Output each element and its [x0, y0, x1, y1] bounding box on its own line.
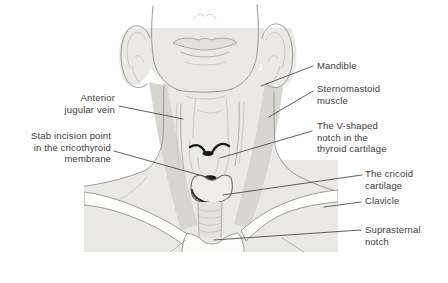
medical-diagram: Anterior jugular vein Stab incision poin…	[0, 0, 448, 283]
illustration-body	[74, 22, 354, 261]
label-anterior-jugular-vein: Anterior jugular vein	[35, 92, 115, 115]
label-cricoid: The cricoid cartilage	[365, 168, 445, 191]
label-clavicle: Clavicle	[365, 195, 445, 207]
label-sternomastoid: Sternomastoid muscle	[317, 83, 427, 106]
label-stab-incision: Stab incision point in the cricothyroid …	[16, 130, 111, 165]
label-mandible: Mandible	[317, 60, 427, 72]
trachea	[198, 202, 222, 238]
label-suprasternal: Suprasternal notch	[365, 224, 445, 247]
label-v-notch: The V-shaped notch in the thyroid cartil…	[317, 120, 427, 155]
